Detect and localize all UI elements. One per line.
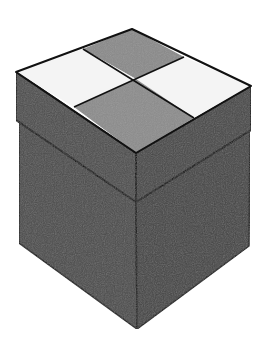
box-illustration [0,0,270,348]
